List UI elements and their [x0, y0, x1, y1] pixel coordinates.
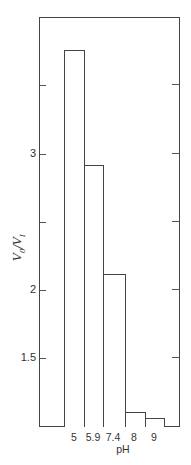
y-tick-right-1.5	[172, 357, 179, 358]
y-tick-right-2.5	[172, 221, 179, 222]
y-tick-2	[40, 290, 46, 291]
x-axis-label: pH	[110, 443, 136, 455]
y-tick-3.5	[40, 85, 46, 86]
y-tick-label-1.5: 1.5	[12, 352, 36, 363]
y-tick-2.5	[40, 222, 46, 223]
y-tick-right-3	[172, 153, 179, 154]
bar-ph-9	[145, 418, 165, 427]
y-tick-right-3.5	[172, 84, 179, 85]
y-tick-label-2: 2	[12, 284, 36, 295]
y-tick-label-3: 3	[12, 148, 36, 159]
bar-ph-5	[64, 50, 85, 427]
bar-chart: 3 2 1.5 V0/VI 5 5.9 7.4 8 9 pH	[0, 0, 191, 465]
y-tick-3	[40, 154, 46, 155]
y-tick-right-2	[172, 289, 179, 290]
y-axis-label: V0/VI	[11, 223, 26, 273]
x-tick-label-9: 9	[142, 432, 166, 443]
bar-ph-7.4	[103, 274, 126, 427]
y-tick-1.5	[40, 358, 46, 359]
bar-ph-5.9	[84, 165, 104, 427]
bar-ph-8	[125, 412, 146, 427]
